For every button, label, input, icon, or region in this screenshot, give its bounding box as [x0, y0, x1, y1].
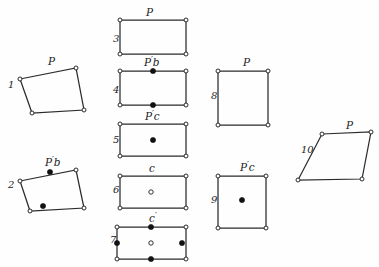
cell-index-5: 5: [113, 134, 119, 145]
vertex-node: [82, 206, 86, 210]
cell-5: P′c5: [113, 109, 188, 159]
cell-7: c′7: [110, 211, 188, 262]
cell-outline-8: [218, 71, 268, 125]
vertex-node: [118, 52, 122, 56]
cell-index-7: 7: [110, 234, 117, 245]
vertex-node: [115, 225, 119, 229]
cell-label-8: P: [242, 56, 251, 68]
cell-index-3: 3: [113, 33, 119, 44]
vertex-node: [369, 130, 373, 134]
cell-index-6: 6: [113, 184, 120, 195]
figure-canvas: P1P′b2P3P′b4P′c5c6c′7P8P′c9P10: [0, 0, 379, 267]
vertex-node: [74, 168, 78, 172]
cell-10: P10: [296, 119, 373, 182]
cell-label-3: P: [145, 6, 154, 18]
cell-outline-4: [120, 71, 186, 105]
vertex-node: [216, 69, 220, 73]
vertex-node: [118, 122, 122, 126]
cell-index-9: 9: [211, 194, 218, 205]
lattice-point-filled: [148, 224, 153, 229]
cell-1: P1: [8, 55, 86, 115]
vertex-node: [184, 225, 188, 229]
vertex-node: [296, 178, 300, 182]
vertex-node: [118, 69, 122, 73]
vertex-node: [18, 179, 22, 183]
cell-2: P′b2: [7, 155, 86, 214]
cell-index-4: 4: [112, 84, 119, 95]
cell-9: P′c9: [211, 160, 268, 231]
vertex-node: [264, 174, 268, 178]
vertex-node: [184, 154, 188, 158]
vertex-node: [184, 206, 188, 210]
lattice-cells-figure: P1P′b2P3P′b4P′c5c6c′7P8P′c9P10: [0, 0, 379, 267]
cell-4: P′b4: [112, 55, 188, 108]
vertex-node: [184, 69, 188, 73]
cell-index-8: 8: [211, 90, 217, 101]
lattice-point-filled: [47, 169, 52, 174]
vertex-node: [184, 103, 188, 107]
lattice-point-filled: [179, 240, 184, 245]
vertex-node: [320, 132, 324, 136]
lattice-point-filled: [148, 256, 153, 261]
cell-label-1: P: [47, 55, 56, 67]
vertex-node: [118, 103, 122, 107]
vertex-node: [264, 226, 268, 230]
lattice-point-open: [149, 241, 153, 245]
vertex-node: [118, 206, 122, 210]
cell-label-2: P′b: [44, 155, 61, 169]
vertex-node: [184, 122, 188, 126]
cell-label-9: P′c: [239, 160, 255, 174]
vertex-node: [216, 123, 220, 127]
cell-label-4: P′b: [143, 55, 160, 69]
cell-6: c6: [113, 162, 188, 210]
cell-outline-2: [20, 170, 84, 211]
vertex-node: [28, 209, 32, 213]
vertex-node: [74, 66, 78, 70]
vertex-node: [184, 257, 188, 261]
cell-outline-1: [20, 68, 84, 113]
lattice-point-filled: [150, 137, 155, 142]
lattice-point-filled: [239, 197, 244, 202]
vertex-node: [118, 18, 122, 22]
vertex-node: [30, 111, 34, 115]
vertex-node: [118, 174, 122, 178]
lattice-point-filled: [40, 203, 45, 208]
cell-outline-3: [120, 20, 186, 54]
vertex-node: [115, 257, 119, 261]
vertex-node: [266, 123, 270, 127]
cell-index-1: 1: [8, 79, 14, 90]
cell-index-10: 10: [301, 144, 314, 155]
cell-label-6: c: [149, 162, 155, 174]
cell-outline-10: [298, 132, 371, 180]
cell-label-10: P: [345, 119, 354, 131]
lattice-point-filled: [150, 68, 155, 73]
vertex-node: [216, 226, 220, 230]
vertex-node: [216, 174, 220, 178]
vertex-node: [18, 77, 22, 81]
vertex-node: [266, 69, 270, 73]
cell-3: P3: [113, 6, 188, 56]
vertex-node: [82, 108, 86, 112]
cell-label-5: P′c: [144, 109, 160, 123]
vertex-node: [360, 177, 364, 181]
vertex-node: [118, 154, 122, 158]
lattice-point-filled: [150, 102, 155, 107]
vertex-node: [184, 18, 188, 22]
lattice-point-open: [149, 190, 153, 194]
cell-index-2: 2: [7, 179, 14, 190]
vertex-node: [184, 52, 188, 56]
vertex-node: [184, 174, 188, 178]
cell-label-7: c′: [149, 211, 157, 225]
cell-8: P8: [211, 56, 270, 127]
